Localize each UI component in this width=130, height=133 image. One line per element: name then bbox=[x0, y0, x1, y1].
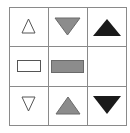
puzzle-grid bbox=[9, 7, 127, 126]
large-gray-rectangle-icon bbox=[48, 46, 87, 86]
cell-r3-c2 bbox=[48, 86, 87, 125]
cell-r3-c3 bbox=[87, 86, 126, 125]
small-white-triangle-up-icon bbox=[9, 7, 48, 46]
grid-border-right bbox=[126, 7, 127, 126]
small-white-rectangle-icon bbox=[9, 46, 48, 86]
small-white-triangle-down-icon bbox=[9, 86, 48, 125]
cell-r3-c1 bbox=[9, 86, 48, 125]
cell-r2-c1 bbox=[9, 46, 48, 85]
grid-border-bottom bbox=[9, 125, 127, 126]
large-gray-triangle-up-icon bbox=[48, 86, 87, 125]
cell-r1-c2 bbox=[48, 7, 87, 46]
large-black-triangle-down-icon bbox=[87, 86, 126, 125]
large-gray-triangle-down-icon bbox=[48, 7, 87, 46]
cell-r1-c1 bbox=[9, 7, 48, 46]
cell-r1-c3 bbox=[87, 7, 126, 46]
large-black-triangle-up-icon bbox=[87, 7, 126, 46]
cell-r2-c2 bbox=[48, 46, 87, 85]
cell-r2-c3-empty bbox=[87, 46, 126, 85]
